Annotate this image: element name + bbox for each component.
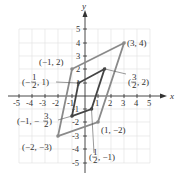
frac-den: 2 [44, 119, 49, 129]
y-tick-label: -3 [72, 131, 79, 141]
y-tick-label: 5 [76, 24, 80, 34]
label-text: (− [22, 77, 30, 87]
label-3-4: (3, 4) [127, 38, 147, 48]
label-text: ( [89, 152, 92, 162]
label-text: ) [49, 116, 52, 126]
frac-den: 2 [93, 155, 98, 165]
x-tick-label: 3 [121, 98, 125, 108]
y-tick-label: -2 [72, 117, 79, 127]
label-text: , 1) [37, 77, 49, 87]
frac-den: 2 [132, 80, 137, 90]
x-tick-label: 5 [147, 98, 151, 108]
label-m1-2: (−1, 2) [39, 57, 64, 67]
x-tick-labels: -5 -4 -3 -2 -1 1 2 3 4 5 [13, 98, 151, 108]
x-tick-label: -5 [13, 98, 20, 108]
x-axis-label: x [169, 91, 174, 101]
x-tick-label: -3 [39, 98, 46, 108]
y-axis-arrow-icon [83, 10, 88, 17]
x-tick-label: 4 [134, 98, 139, 108]
x-tick-label: -2 [52, 98, 59, 108]
label-text: (−1, − [17, 116, 39, 126]
label-3half-2: ( 3 2 , 2) [128, 72, 149, 90]
frac-den: 2 [32, 80, 37, 90]
y-tick-label: -5 [72, 158, 79, 168]
x-tick-label: -4 [26, 98, 34, 108]
leader-lines [56, 69, 126, 153]
label-m2-m3: (−2, −3) [22, 142, 52, 152]
label-m1-m3half: (−1, − 3 2 ) [17, 111, 52, 129]
y-tick-label: -4 [72, 144, 80, 154]
label-text: ( [128, 77, 131, 87]
label-text: , 2) [137, 77, 149, 87]
label-1-m2: (1, −2) [101, 125, 126, 135]
x-axis-arrow-icon [160, 94, 167, 99]
coordinate-plane: x y -5 -4 -3 -2 -1 1 2 3 4 5 5 4 3 2 1 -… [0, 0, 177, 181]
y-tick-label: 3 [76, 51, 80, 61]
x-tick-label: 2 [108, 98, 112, 108]
y-axis-label: y [81, 1, 86, 11]
x-tick-label: 1 [95, 98, 99, 108]
label-text: , −1) [98, 152, 115, 162]
